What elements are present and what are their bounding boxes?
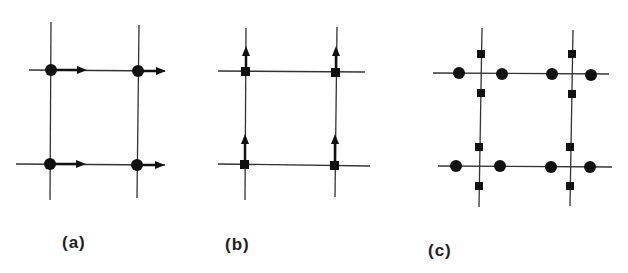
circle-site-icon: [546, 68, 558, 80]
panel-c-circles: [450, 67, 597, 173]
panel-b-sites: [240, 67, 340, 170]
square-site-icon: [566, 182, 574, 190]
circle-site-icon: [131, 159, 143, 171]
circle-site-icon: [453, 67, 465, 79]
square-site-icon: [568, 50, 576, 58]
circle-site-icon: [584, 161, 596, 173]
square-site-icon: [330, 161, 339, 170]
square-site-icon: [331, 68, 340, 77]
circle-site-icon: [450, 160, 462, 172]
square-site-icon: [475, 182, 483, 190]
circle-site-icon: [545, 161, 557, 173]
lattice-diagrams: [0, 0, 628, 273]
panel-a: [16, 22, 165, 200]
square-site-icon: [240, 160, 249, 169]
square-site-icon: [241, 67, 250, 76]
square-site-icon: [566, 143, 574, 151]
circle-site-icon: [45, 64, 57, 76]
figure-canvas: (a) (b) (c): [0, 0, 628, 273]
panel-c: [433, 28, 612, 207]
panel-c-label: (c): [428, 241, 452, 261]
panel-a-sites: [44, 64, 144, 171]
circle-site-icon: [132, 65, 144, 77]
circle-site-icon: [496, 68, 508, 80]
circle-site-icon: [44, 158, 56, 170]
panel-a-arrows: [55, 70, 157, 165]
square-site-icon: [568, 90, 576, 98]
panel-a-label: (a): [62, 233, 86, 253]
panel-c-squares: [475, 50, 576, 190]
circle-site-icon: [494, 160, 506, 172]
panel-b: [218, 27, 370, 200]
circle-site-icon: [585, 69, 597, 81]
panel-b-label: (b): [225, 235, 250, 255]
square-site-icon: [477, 50, 485, 58]
square-site-icon: [475, 143, 483, 151]
square-site-icon: [477, 89, 485, 97]
